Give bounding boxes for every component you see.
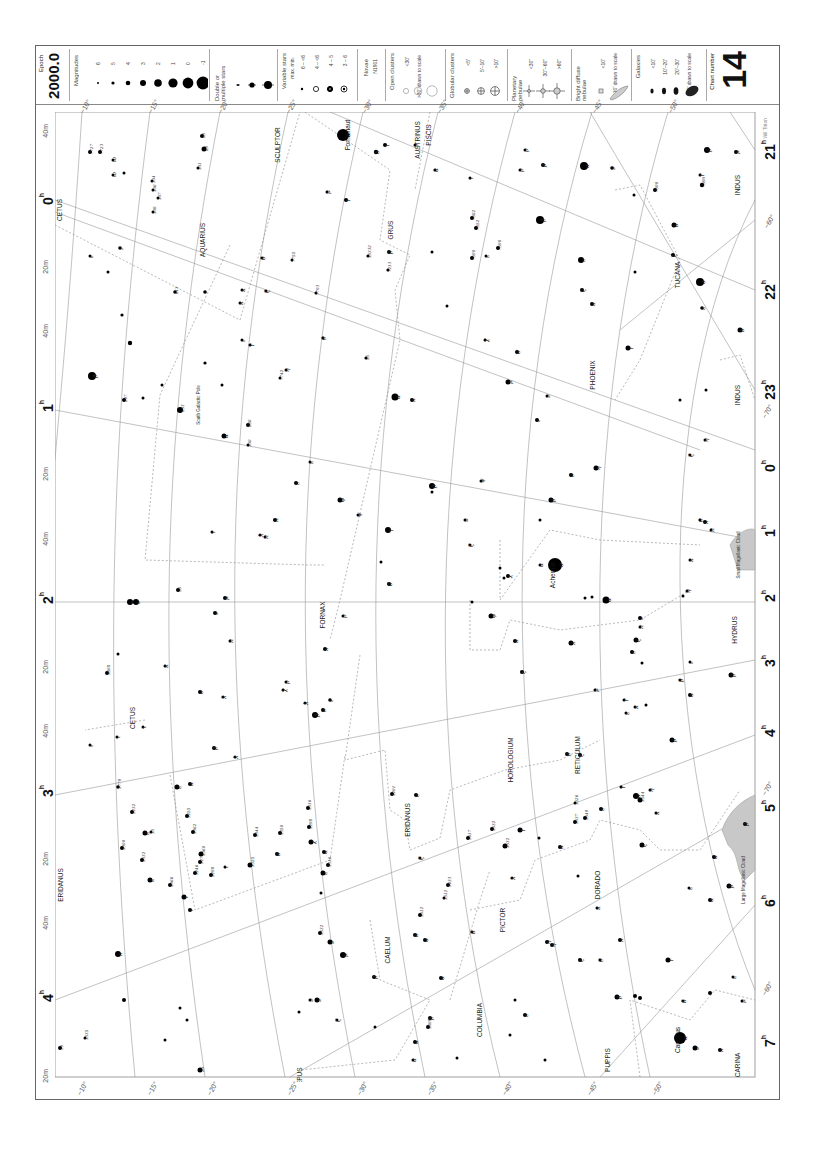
star-label: ρ bbox=[283, 680, 291, 685]
star-label: ε bbox=[629, 651, 636, 654]
star-label: δ bbox=[259, 256, 266, 260]
star[interactable] bbox=[380, 561, 383, 564]
star[interactable] bbox=[123, 172, 126, 175]
star[interactable] bbox=[374, 1026, 377, 1029]
star-label: ν bbox=[212, 611, 219, 615]
star-label: α bbox=[438, 976, 445, 980]
star[interactable] bbox=[577, 875, 580, 878]
star-label: α bbox=[432, 168, 439, 172]
special-label: Large Magellanic Cloud bbox=[741, 856, 746, 904]
star-label: γ bbox=[626, 346, 634, 350]
star-label: δ bbox=[469, 930, 476, 934]
star-label: γ bbox=[618, 785, 626, 789]
star[interactable] bbox=[107, 271, 110, 274]
star-label: β bbox=[727, 884, 735, 889]
star[interactable] bbox=[164, 1039, 167, 1042]
star-map[interactable]: 77277723ωω8889101104106107108β62247253α2… bbox=[55, 112, 760, 1082]
star-label: κ bbox=[632, 705, 639, 710]
star[interactable] bbox=[509, 1034, 512, 1037]
star-label: δ bbox=[412, 933, 419, 937]
star-label: λ bbox=[232, 755, 239, 760]
star-label: α bbox=[583, 164, 590, 168]
star-label: β bbox=[742, 822, 750, 827]
star[interactable] bbox=[431, 251, 434, 254]
star[interactable] bbox=[122, 998, 126, 1002]
star[interactable] bbox=[682, 595, 685, 598]
star[interactable] bbox=[471, 601, 474, 604]
star[interactable] bbox=[503, 577, 506, 580]
star-label: γ bbox=[666, 958, 674, 962]
star[interactable] bbox=[634, 271, 637, 274]
star[interactable] bbox=[456, 1057, 459, 1060]
star-label: η bbox=[594, 466, 602, 470]
star[interactable] bbox=[203, 290, 207, 294]
star-label: λ bbox=[220, 695, 227, 700]
star-label: λ bbox=[702, 520, 709, 525]
constellation-label: ERIDANUS bbox=[404, 803, 411, 837]
star[interactable] bbox=[645, 704, 648, 707]
star-label: ε bbox=[623, 712, 630, 715]
star-label: 7742 bbox=[279, 369, 284, 380]
star-label: η bbox=[684, 589, 692, 593]
ra-minute-label: 20m bbox=[42, 467, 49, 481]
constellation-label: PISCIS bbox=[425, 124, 432, 146]
star[interactable] bbox=[186, 1019, 189, 1022]
star[interactable] bbox=[117, 653, 120, 656]
star[interactable] bbox=[633, 194, 636, 197]
star-label: 1535 bbox=[84, 1029, 89, 1040]
star[interactable] bbox=[499, 567, 502, 570]
star[interactable] bbox=[128, 341, 132, 345]
constellation-label: INDUS bbox=[734, 384, 741, 405]
star[interactable] bbox=[320, 892, 323, 895]
star[interactable] bbox=[638, 996, 642, 1000]
star[interactable] bbox=[708, 991, 712, 995]
star-label: θ bbox=[320, 336, 327, 340]
ra-hour-label: 5h bbox=[760, 800, 778, 812]
ra-hour-label: 1h bbox=[760, 525, 778, 537]
star-label: α bbox=[187, 782, 194, 786]
star[interactable] bbox=[539, 519, 542, 522]
star[interactable] bbox=[633, 994, 637, 998]
star-label: λ bbox=[717, 1048, 724, 1053]
star-label: β bbox=[677, 678, 685, 683]
star-label: γ bbox=[621, 698, 629, 702]
star-label: β bbox=[705, 148, 713, 153]
constellation-label: PHOENIX bbox=[589, 360, 596, 390]
star[interactable] bbox=[641, 662, 644, 665]
star[interactable] bbox=[591, 596, 594, 599]
star[interactable] bbox=[679, 399, 682, 402]
star[interactable] bbox=[431, 491, 434, 494]
star-label: μ bbox=[506, 380, 514, 384]
star[interactable] bbox=[179, 1007, 182, 1010]
star[interactable] bbox=[584, 597, 587, 600]
star[interactable] bbox=[298, 1011, 301, 1014]
ra-minute-label: 20m bbox=[42, 260, 49, 274]
star[interactable] bbox=[514, 999, 517, 1002]
star[interactable] bbox=[221, 384, 224, 387]
ra-hour-label: 21h bbox=[760, 140, 778, 160]
named-star-label: Fomalhaut bbox=[344, 119, 351, 150]
star[interactable] bbox=[705, 389, 708, 392]
star[interactable] bbox=[161, 384, 164, 387]
star-label: β bbox=[371, 975, 379, 980]
star[interactable] bbox=[544, 1059, 547, 1062]
star[interactable] bbox=[538, 837, 541, 840]
star-label: 58 bbox=[177, 586, 182, 592]
star-label: 1512 bbox=[443, 889, 448, 900]
star-label: χ bbox=[280, 688, 288, 693]
star-label: 1617 bbox=[467, 829, 472, 840]
star-label: 7552 bbox=[475, 219, 480, 230]
star[interactable] bbox=[203, 361, 206, 364]
star-label: μ bbox=[733, 150, 741, 154]
star-label: δ bbox=[386, 582, 393, 586]
star-label: ρ bbox=[522, 148, 530, 153]
star-label: 247 bbox=[123, 394, 128, 403]
star[interactable] bbox=[446, 305, 449, 308]
star-label: ι bbox=[87, 745, 94, 747]
star[interactable] bbox=[120, 313, 123, 316]
star-label: λ bbox=[116, 952, 123, 957]
star-label: ε bbox=[483, 255, 490, 258]
star-label: κ bbox=[237, 301, 244, 306]
star[interactable] bbox=[142, 397, 145, 400]
star-label: 253 bbox=[180, 404, 185, 413]
